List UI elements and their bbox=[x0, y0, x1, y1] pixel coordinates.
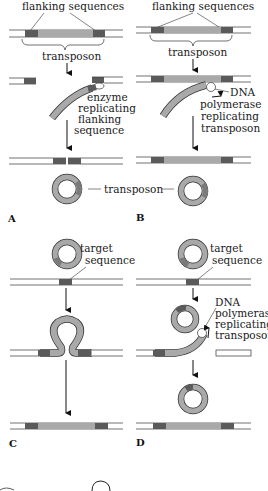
flanking-sequences-label-a: flanking sequences bbox=[22, 0, 124, 12]
arrow-right-icon bbox=[212, 96, 221, 97]
dna-polymerase-icon bbox=[207, 83, 216, 92]
polymerase-label-d-line4: transposon bbox=[215, 329, 268, 341]
panel-c: target sequence C bbox=[9, 242, 135, 449]
dna-result-b bbox=[136, 157, 251, 163]
target-label-d-line2: sequence bbox=[212, 254, 262, 266]
arrow-up-icon bbox=[208, 328, 209, 338]
brace-icon bbox=[150, 35, 232, 46]
transposon-circle-c bbox=[55, 242, 79, 266]
target-label-c-line2: sequence bbox=[85, 254, 135, 266]
cropped-fragment bbox=[0, 488, 14, 490]
omega-insertion-c bbox=[10, 319, 123, 356]
dna-strand-a1 bbox=[9, 30, 123, 37]
dna-strand-d1 bbox=[136, 279, 251, 285]
panel-label-d: D bbox=[136, 437, 145, 448]
brace-icon bbox=[22, 39, 104, 50]
dna-result-c bbox=[10, 423, 123, 429]
target-label-c: target bbox=[80, 242, 113, 254]
target-label-d: target bbox=[210, 242, 243, 254]
transposon-circle-b bbox=[181, 179, 205, 203]
polymerase-label-b-line2: polymerase bbox=[200, 98, 261, 110]
cropped-fragment bbox=[92, 481, 110, 491]
dna-strand-b1 bbox=[136, 27, 251, 33]
transposon-circle-d2 bbox=[181, 387, 205, 411]
transposition-diagram: flanking sequences transposon enzyme bbox=[0, 0, 268, 491]
transposon-label-a: transposon bbox=[42, 50, 101, 62]
dna-polymerase-icon bbox=[198, 329, 207, 338]
transposon-circle-d bbox=[181, 242, 205, 266]
panel-label-c: C bbox=[9, 438, 17, 449]
polymerase-label-b-line3: replicating bbox=[201, 110, 259, 122]
transposon-circle-a bbox=[55, 177, 79, 201]
transposon-circle-label: transposon bbox=[104, 183, 163, 195]
panel-label-b: B bbox=[136, 212, 144, 223]
polymerase-label-b: DNA bbox=[230, 86, 256, 98]
dna-result-a bbox=[9, 158, 123, 164]
dna-result-d bbox=[136, 423, 251, 429]
polymerase-label-b-line4: transposon bbox=[201, 122, 260, 134]
dna-strand-c1 bbox=[10, 279, 123, 285]
target-sequence bbox=[59, 279, 72, 285]
flanking-sequences-label-b: flanking sequences bbox=[152, 0, 254, 12]
diagram-canvas: flanking sequences transposon enzyme bbox=[0, 0, 268, 491]
enzyme-label-line4: sequence bbox=[74, 124, 124, 136]
target-sequence bbox=[186, 279, 199, 285]
transposon-label-b: transposon bbox=[168, 46, 227, 58]
panel-d: target sequence DNA polymerase replicati… bbox=[136, 242, 268, 448]
panel-label-a: A bbox=[7, 213, 16, 224]
